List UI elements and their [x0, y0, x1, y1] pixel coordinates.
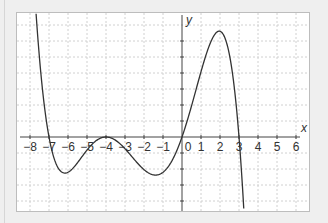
- x-tick-label: −7: [42, 140, 56, 154]
- x-tick-label: 5: [274, 140, 281, 154]
- x-tick-label: 1: [198, 140, 205, 154]
- x-tick-label: −3: [118, 140, 132, 154]
- x-tick-label: −1: [156, 140, 170, 154]
- grid-lines: [17, 13, 309, 211]
- x-tick-label: 4: [255, 140, 262, 154]
- x-tick-label: 2: [217, 140, 224, 154]
- x-axis-label: x: [300, 121, 308, 135]
- x-tick-label: 6: [293, 140, 300, 154]
- chart-stage: −8−7−6−5−4−3−2−10123456 x y: [0, 0, 328, 223]
- x-tick-label: −8: [23, 140, 37, 154]
- function-graph: −8−7−6−5−4−3−2−10123456 x y: [0, 0, 328, 223]
- function-curve: [36, 14, 244, 209]
- y-axis-label: y: [185, 13, 193, 27]
- tick-labels: −8−7−6−5−4−3−2−10123456: [23, 140, 300, 154]
- x-tick-label: 0: [185, 140, 192, 154]
- x-tick-label: −5: [80, 140, 94, 154]
- x-tick-label: −4: [99, 140, 113, 154]
- x-tick-label: −2: [137, 140, 151, 154]
- x-tick-label: −6: [61, 140, 75, 154]
